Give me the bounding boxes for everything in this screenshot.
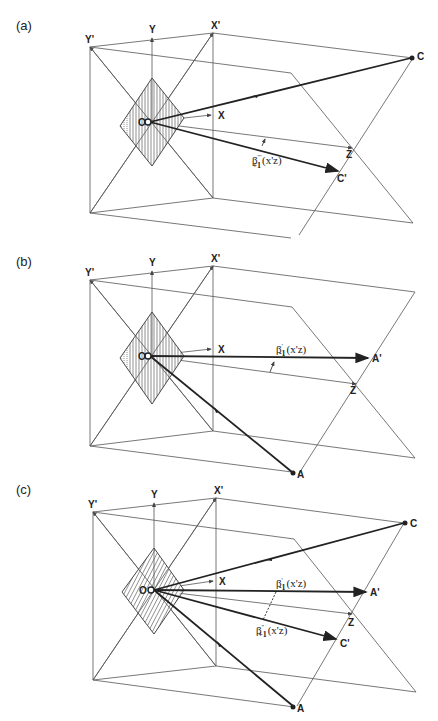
- beta-label-c-1: β'-1(x'z): [276, 576, 307, 592]
- point-c-dot: [403, 521, 408, 526]
- label-y: Y: [151, 489, 158, 500]
- panel-b: (b): [0, 240, 438, 480]
- label-c: C: [410, 518, 417, 529]
- diagram-b: Y' Y X' X Z O A A' β'-1(x'z): [0, 240, 438, 480]
- label-origin: O: [139, 585, 147, 596]
- panel-a: (a): [0, 0, 438, 240]
- point-a-dot: [291, 471, 296, 476]
- label-x-prime: X': [211, 253, 220, 264]
- point-c-dot: [410, 56, 415, 61]
- label-z: Z: [346, 149, 352, 160]
- panel-c: (c): [0, 480, 438, 721]
- origin-marker: [145, 353, 151, 359]
- beta-label-b: β'-1(x'z): [276, 342, 307, 358]
- beams: [148, 521, 408, 710]
- label-z: Z: [350, 385, 356, 396]
- origin-marker: [145, 119, 151, 125]
- beta-label-a: β'''+1(x'z): [252, 153, 282, 170]
- label-x-prime: X': [214, 485, 223, 496]
- label-a: A: [297, 703, 304, 714]
- label-y: Y: [149, 257, 156, 268]
- origin-marker: [148, 587, 154, 593]
- label-y: Y: [149, 24, 156, 35]
- label-origin: O: [138, 117, 146, 128]
- diagram-a: Y' Y X' X Z O C C' β'''+1(x'z): [0, 0, 438, 240]
- label-x: X: [218, 344, 225, 355]
- label-y-prime: Y': [88, 499, 97, 510]
- label-y-prime: Y': [85, 267, 94, 278]
- label-c: C: [417, 51, 424, 62]
- beta-label-c-2: β''+1(x'z): [256, 623, 288, 639]
- label-x: X: [218, 110, 225, 121]
- label-x: X: [219, 576, 226, 587]
- label-z: Z: [348, 617, 354, 628]
- label-y-prime: Y': [85, 34, 94, 45]
- label-x-prime: X': [211, 20, 220, 31]
- label-a-prime: A': [370, 587, 380, 598]
- label-c-prime: C': [340, 638, 350, 649]
- label-a: A: [297, 469, 304, 480]
- diagram-c: Y' Y X' X Z O C A A' C' β'-1(x'z) β''+1(…: [0, 480, 438, 721]
- label-origin: O: [138, 351, 146, 362]
- label-a-prime: A': [372, 353, 382, 364]
- label-c-prime: C': [337, 173, 347, 184]
- point-a-dot: [291, 705, 296, 710]
